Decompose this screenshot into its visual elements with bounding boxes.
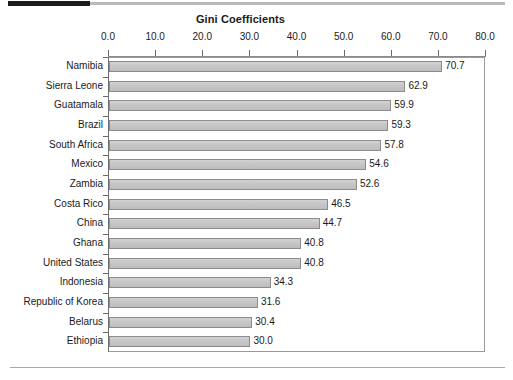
- bar[interactable]: [109, 159, 366, 170]
- x-axis-tick-label: 70.0: [428, 31, 447, 42]
- y-axis-tick-mark: [103, 175, 108, 176]
- category-label: Zambia: [70, 178, 103, 190]
- bar-row[interactable]: United States40.8: [0, 254, 513, 274]
- bar-value-label: 30.4: [255, 316, 274, 328]
- bar-value-label: 54.6: [369, 158, 388, 170]
- category-label: Costa Rico: [54, 198, 103, 210]
- x-axis-tick-label: 40.0: [287, 31, 306, 42]
- x-axis-tick-label: 0.0: [101, 31, 115, 42]
- bar[interactable]: [109, 277, 271, 288]
- bar[interactable]: [109, 238, 301, 249]
- y-axis-tick-mark: [103, 57, 108, 58]
- bar-row[interactable]: Republic of Korea31.6: [0, 293, 513, 313]
- y-axis-tick-mark: [103, 254, 108, 255]
- category-label: Sierra Leone: [46, 80, 103, 92]
- y-axis-tick-mark: [103, 195, 108, 196]
- y-axis-tick-mark: [103, 332, 108, 333]
- category-label: Mexico: [71, 158, 103, 170]
- y-axis-tick-mark: [103, 273, 108, 274]
- bar-row[interactable]: Guatamala59.9: [0, 96, 513, 116]
- y-axis-tick-mark: [103, 155, 108, 156]
- bar-row[interactable]: Costa Rico46.5: [0, 195, 513, 215]
- y-axis-tick-mark: [103, 293, 108, 294]
- bar-value-label: 46.5: [331, 198, 350, 210]
- category-label: United States: [43, 257, 103, 269]
- category-label: Ethiopia: [67, 335, 103, 347]
- bar-value-label: 59.3: [391, 119, 410, 131]
- bar-row[interactable]: Indonesia34.3: [0, 273, 513, 293]
- category-label: Ghana: [73, 237, 103, 249]
- bar-value-label: 40.8: [304, 237, 323, 249]
- bar-value-label: 70.7: [445, 60, 464, 72]
- x-axis-tick-label: 60.0: [381, 31, 400, 42]
- y-axis-tick-mark: [103, 96, 108, 97]
- bar-row[interactable]: Ghana40.8: [0, 234, 513, 254]
- bar-value-label: 59.9: [394, 99, 413, 111]
- x-axis-tick-labels: 0.010.020.030.040.050.060.070.080.0: [0, 31, 513, 45]
- bar-row[interactable]: Sierra Leone62.9: [0, 77, 513, 97]
- bar-value-label: 57.8: [384, 139, 403, 151]
- x-axis-tick-label: 50.0: [334, 31, 353, 42]
- header-rule-light: [90, 2, 505, 5]
- y-axis-tick-mark: [103, 77, 108, 78]
- x-axis-tick-label: 80.0: [475, 31, 494, 42]
- category-label: Brazil: [78, 119, 103, 131]
- bar-value-label: 34.3: [274, 276, 293, 288]
- bar-value-label: 40.8: [304, 257, 323, 269]
- bar-row[interactable]: Belarus30.4: [0, 313, 513, 333]
- bar[interactable]: [109, 317, 252, 328]
- bar[interactable]: [109, 120, 388, 131]
- bar-value-label: 62.9: [408, 80, 427, 92]
- x-axis-tick-label: 30.0: [240, 31, 259, 42]
- category-label: Namibia: [66, 60, 103, 72]
- bar-row[interactable]: Mexico54.6: [0, 155, 513, 175]
- bar-row[interactable]: China44.7: [0, 214, 513, 234]
- bar[interactable]: [109, 336, 250, 347]
- category-label: South Africa: [49, 139, 103, 151]
- bar-row[interactable]: Zambia52.6: [0, 175, 513, 195]
- x-axis-tick-label: 20.0: [193, 31, 212, 42]
- category-label: Belarus: [69, 316, 103, 328]
- bar[interactable]: [109, 100, 391, 111]
- category-label: Guatamala: [54, 99, 103, 111]
- bar-row[interactable]: South Africa57.8: [0, 136, 513, 156]
- category-label: Republic of Korea: [24, 296, 104, 308]
- y-axis-tick-mark: [103, 116, 108, 117]
- y-axis-tick-mark: [103, 214, 108, 215]
- y-axis-tick-mark: [103, 136, 108, 137]
- bar-rows: Namibia70.7Sierra Leone62.9Guatamala59.9…: [0, 57, 513, 352]
- bar-value-label: 44.7: [323, 217, 342, 229]
- bar[interactable]: [109, 61, 442, 72]
- chart-title-text: Gini Coefficients: [196, 13, 285, 25]
- bar[interactable]: [109, 81, 405, 92]
- bar[interactable]: [109, 297, 258, 308]
- bar-row[interactable]: Brazil59.3: [0, 116, 513, 136]
- header-rule-dark: [8, 1, 90, 6]
- bar-value-label: 52.6: [360, 178, 379, 190]
- bar[interactable]: [109, 199, 328, 210]
- category-label: China: [77, 217, 103, 229]
- bar-row[interactable]: Ethiopia30.0: [0, 332, 513, 352]
- bar-value-label: 31.6: [261, 296, 280, 308]
- bar-row[interactable]: Namibia70.7: [0, 57, 513, 77]
- y-axis-tick-mark: [103, 313, 108, 314]
- bar-value-label: 30.0: [253, 335, 272, 347]
- x-axis-tick-label: 10.0: [145, 31, 164, 42]
- chart-title: Gini Coefficients: [0, 13, 513, 25]
- bar[interactable]: [109, 218, 320, 229]
- bar[interactable]: [109, 258, 301, 269]
- bar[interactable]: [109, 179, 357, 190]
- category-label: Indonesia: [60, 276, 103, 288]
- y-axis-tick-mark: [103, 234, 108, 235]
- bar[interactable]: [109, 140, 381, 151]
- footer-rule: [10, 367, 505, 368]
